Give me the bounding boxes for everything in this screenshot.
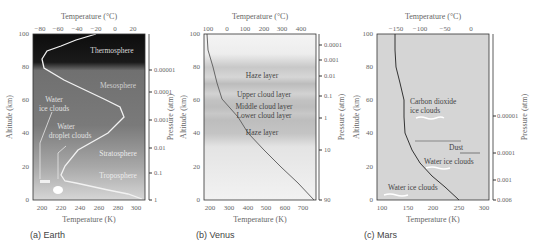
svg-text:20: 20 [130,25,138,33]
earth-celsius-axis-label: Temperature (°C) [61,12,118,21]
mars-celsius-axis-label: Temperature (°C) [405,12,462,21]
svg-text:−100: −100 [413,25,428,33]
svg-text:40: 40 [366,129,374,137]
svg-text:200: 200 [205,204,216,212]
mars-x-axis-bottom: 100150200 250300 [377,204,490,212]
earth-stratosphere-label: Stratosphere [99,149,137,158]
venus-haze-lower-label: Haze layer [246,128,279,137]
svg-text:400: 400 [243,204,254,212]
earth-altitude-axis-label: Altitude (km) [5,95,14,139]
earth-panel: Thermosphere Mesosphere Water ice clouds… [5,12,175,224]
svg-text:100: 100 [203,25,214,33]
svg-text:0.00001: 0.00001 [497,112,518,119]
svg-text:80: 80 [22,63,30,71]
svg-text:300: 300 [479,204,490,212]
venus-haze-upper-label: Haze layer [246,71,279,80]
svg-text:0.0001: 0.0001 [324,41,342,48]
svg-text:0: 0 [26,196,30,204]
svg-text:0: 0 [113,25,117,33]
svg-text:20: 20 [22,163,30,171]
svg-text:150: 150 [403,204,414,212]
svg-text:0.1: 0.1 [324,92,332,99]
venus-altitude-axis-label: Altitude (km) [179,95,188,139]
svg-text:500: 500 [261,204,272,212]
svg-text:0: 0 [370,196,374,204]
svg-text:100: 100 [19,30,30,38]
mars-co2-cloud-label-2: ice clouds [410,106,440,115]
earth-x-axis-top: −80−60−40 −20020 [35,25,137,33]
venus-lower-cloud-label: Lower cloud layer [237,111,292,120]
venus-kelvin-axis-label: Temperature (K) [233,215,287,224]
mars-water-cloud-label-upper: Water ice clouds [424,157,474,166]
svg-text:300: 300 [277,25,288,33]
venus-upper-cloud-label: Upper cloud layer [237,90,292,99]
atmosphere-profiles-figure: Thermosphere Mesosphere Water ice clouds… [0,0,537,248]
mars-y-axis: 0 20 40 60 80 100 [363,30,374,204]
svg-text:−50: −50 [440,25,451,33]
svg-text:40: 40 [193,129,201,137]
svg-text:100: 100 [363,30,374,38]
svg-text:0.01: 0.01 [324,72,335,79]
svg-text:600: 600 [280,204,291,212]
svg-text:1: 1 [324,114,327,121]
svg-text:80: 80 [366,63,374,71]
svg-text:0.006: 0.006 [497,196,512,203]
svg-text:0: 0 [469,25,473,33]
svg-text:700: 700 [298,204,309,212]
svg-text:200: 200 [259,25,270,33]
svg-text:1: 1 [154,196,157,203]
venus-celsius-axis-label: Temperature (°C) [232,12,289,21]
earth-droplet-cloud-label: Water [57,122,75,131]
svg-text:60: 60 [193,96,201,104]
earth-pressure-axis-label: Pressure (atm) [166,93,175,140]
venus-x-axis-bottom: 200300400 500600700 [205,204,309,212]
svg-text:400: 400 [296,25,307,33]
svg-text:0.1: 0.1 [154,169,162,176]
svg-text:80: 80 [193,63,201,71]
svg-text:280: 280 [113,204,124,212]
svg-text:−150: −150 [389,25,404,33]
svg-text:200: 200 [37,204,48,212]
svg-text:0: 0 [225,25,229,33]
svg-text:100: 100 [240,25,251,33]
mars-x-axis-top: −150−100−50 0 [389,25,473,33]
earth-troposphere-label: Troposphere [99,171,137,180]
svg-text:−20: −20 [91,25,102,33]
svg-text:60: 60 [366,96,374,104]
svg-text:40: 40 [22,129,30,137]
caption-mars: (c) Mars [364,230,397,240]
venus-panel: Haze layer Upper cloud layer Middle clou… [179,12,346,224]
svg-text:100: 100 [377,204,388,212]
mars-pressure-axis: 0.00001 0.0001 0.001 0.006 [493,112,518,203]
svg-text:20: 20 [193,163,201,171]
earth-ice-cloud-label-2: ice clouds [39,104,69,113]
earth-cloud-marker-2 [53,186,63,194]
svg-text:250: 250 [454,204,465,212]
earth-mesosphere-label: Mesosphere [100,81,137,90]
svg-text:20: 20 [366,163,374,171]
caption-earth: (a) Earth [30,230,65,240]
svg-text:100: 100 [190,30,201,38]
svg-text:−40: −40 [72,25,83,33]
svg-text:0.001: 0.001 [324,56,339,63]
mars-water-cloud-label-lower: Water ice clouds [388,183,438,192]
venus-middle-cloud-label: Middle cloud layer [235,102,293,111]
earth-cloud-marker-1 [40,180,50,183]
earth-x-axis-bottom: 200220240 260280300 [37,204,142,212]
caption-venus: (b) Venus [196,230,235,240]
svg-text:0: 0 [197,196,201,204]
mars-pressure-axis-label: Pressure (atm) [520,93,529,140]
svg-text:300: 300 [224,204,235,212]
mars-kelvin-axis-label: Temperature (K) [406,215,460,224]
svg-text:−60: −60 [53,25,64,33]
svg-text:220: 220 [56,204,67,212]
mars-plot-area [377,34,489,200]
svg-text:0.00001: 0.00001 [154,66,175,73]
svg-text:300: 300 [131,204,142,212]
svg-text:260: 260 [94,204,105,212]
svg-text:−80: −80 [35,25,46,33]
earth-kelvin-axis-label: Temperature (K) [62,215,116,224]
mars-co2-cloud-label: Carbon dioxide [410,97,457,106]
mars-dust-label: Dust [449,143,464,152]
svg-text:200: 200 [428,204,439,212]
